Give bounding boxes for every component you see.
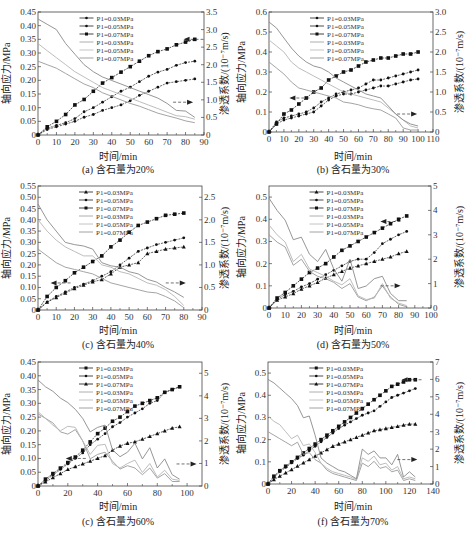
legend-label: P1=0.03MPa <box>326 389 364 397</box>
y2-tick-label: 4 <box>435 409 440 419</box>
y2-tick-label: 2.5 <box>435 27 447 37</box>
dot-marker <box>134 412 137 415</box>
y2-tick-label: 0 <box>206 130 211 140</box>
square-marker <box>155 217 159 221</box>
dot-marker <box>146 247 149 250</box>
x-axis-label-c: 时间/min <box>0 322 236 337</box>
series-line <box>268 416 415 480</box>
dot-marker <box>300 286 303 289</box>
legend-label: P1=0.05MPa <box>96 397 134 405</box>
x-tick-label: 60 <box>143 312 153 322</box>
dot-marker <box>387 85 390 88</box>
dot-marker <box>91 279 94 282</box>
y-axis-label: 轴向应力/MPa <box>235 392 247 454</box>
dot-marker <box>381 242 384 245</box>
y-tick-label: 0.15 <box>20 89 36 99</box>
legend-label: P1=0.03MPa <box>326 365 364 373</box>
dot-marker <box>396 394 399 397</box>
series-line <box>269 235 407 307</box>
square-marker <box>364 235 368 239</box>
x-tick-label: 0 <box>36 312 41 322</box>
dot-marker <box>331 432 334 435</box>
y-tick-label: 0.2 <box>255 435 266 445</box>
caption-e: (c) 含石量为60% <box>0 513 236 528</box>
arrow-left-icon <box>51 280 57 285</box>
y-tick-label: 0 <box>32 481 37 491</box>
triangle-marker <box>389 255 393 259</box>
legend-label: P1=0.07MPa <box>327 229 365 237</box>
y2-tick-label: 1.0 <box>204 260 216 270</box>
dot-marker <box>64 121 67 124</box>
square-marker <box>348 244 352 248</box>
dot-marker <box>126 416 129 419</box>
legend-label: P1=0.03MPa <box>327 39 365 47</box>
panel-a: 010203040506070809000.050.100.150.200.25… <box>0 0 236 178</box>
y-tick-label: 0.1 <box>255 457 266 467</box>
legend-label: P1=0.05MPa <box>326 397 364 405</box>
square-marker <box>405 214 409 218</box>
triangle-marker <box>325 447 329 451</box>
y2-tick-label: 0.5 <box>435 107 447 117</box>
legend-label: P1=0.07MPa <box>96 405 134 413</box>
square-marker <box>118 415 122 419</box>
dot-marker <box>137 250 140 253</box>
x-tick-label: 80 <box>358 486 368 496</box>
y-tick-label: 0.30 <box>20 237 36 247</box>
y-tick-label: 0.30 <box>20 398 36 408</box>
dot-marker <box>409 79 412 82</box>
dot-marker <box>379 79 382 82</box>
dot-marker <box>119 264 122 267</box>
y2-tick-label: 0 <box>435 127 440 137</box>
square-marker <box>155 396 159 400</box>
legend-label: P1=0.07MPa <box>97 55 135 63</box>
square-marker <box>378 393 382 397</box>
square-marker <box>401 52 405 56</box>
dot-marker <box>92 106 95 109</box>
y-tick-label: 0.25 <box>20 412 36 422</box>
legend-label: P1=0.03MPa <box>96 189 134 197</box>
triangle-marker <box>58 471 62 475</box>
y-tick-label: 0.05 <box>20 467 36 477</box>
y-tick-label: 0.50 <box>20 192 36 202</box>
y-tick-label: 0 <box>263 303 268 313</box>
square-marker <box>91 260 95 264</box>
y2-tick-label: 2 <box>435 444 440 454</box>
legend-label: P1=0.05MPa <box>327 221 365 229</box>
y-tick-label: 0.35 <box>20 385 36 395</box>
arrow-left-icon <box>380 219 386 224</box>
dot-marker <box>66 463 69 466</box>
square-marker <box>92 89 96 93</box>
legend-label: P1=0.07MPa <box>96 205 134 213</box>
dot-marker <box>59 468 62 471</box>
x-tick-label: 70 <box>163 137 173 147</box>
y-tick-label: 0.15 <box>20 271 36 281</box>
y2-tick-label: 0 <box>204 481 209 491</box>
square-marker <box>101 81 105 85</box>
dot-marker <box>111 425 114 428</box>
dot-marker <box>292 290 295 293</box>
dot-marker <box>166 82 169 85</box>
triangle-marker <box>290 467 294 471</box>
square-marker <box>36 133 40 137</box>
dot-marker <box>373 251 376 254</box>
square-marker <box>397 217 401 221</box>
y-tick-label: 0.40 <box>20 21 36 31</box>
x-tick-label: 0 <box>266 486 271 496</box>
dot-marker <box>326 436 329 439</box>
x-tick-label: 90 <box>399 134 409 144</box>
series-line <box>38 414 180 482</box>
y2-tick-label: 0.5 <box>204 282 216 292</box>
dot-marker <box>278 470 281 473</box>
square-marker <box>373 231 377 235</box>
square-marker <box>165 47 169 51</box>
square-marker <box>290 108 294 112</box>
triangle-marker <box>397 251 401 255</box>
dot-marker <box>178 385 181 388</box>
y2-tick-label: 2.0 <box>435 47 447 57</box>
dot-marker <box>343 424 346 427</box>
y2-tick-label: 5 <box>433 181 438 191</box>
legend-label: P1=0.07MPa <box>326 381 364 389</box>
square-marker <box>73 103 77 107</box>
square-marker <box>96 432 100 436</box>
y2-tick-label: 5 <box>435 392 440 402</box>
